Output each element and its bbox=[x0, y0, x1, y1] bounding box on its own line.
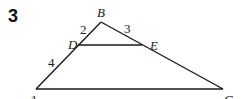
vertex-label-d: D bbox=[67, 37, 78, 52]
vertex-label-c: C bbox=[224, 92, 233, 99]
side-bc bbox=[101, 22, 223, 89]
side-ab bbox=[36, 22, 101, 89]
triangle-diagram: 3 B D E A C 2 3 4 bbox=[0, 0, 242, 99]
length-bd: 2 bbox=[80, 22, 87, 37]
length-be: 3 bbox=[124, 21, 131, 36]
vertex-label-a: A bbox=[28, 92, 37, 99]
vertex-label-b: B bbox=[97, 5, 105, 20]
problem-number: 3 bbox=[8, 6, 18, 26]
length-da: 4 bbox=[48, 55, 55, 70]
vertex-label-e: E bbox=[149, 38, 158, 53]
